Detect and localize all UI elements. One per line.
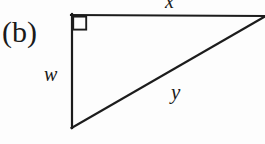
side-label-x: x bbox=[165, 0, 174, 11]
panel-label: (b) bbox=[2, 17, 37, 47]
triangle-side-top-leg bbox=[71, 15, 264, 16]
side-label-y: y bbox=[171, 82, 180, 103]
triangle-diagram bbox=[0, 0, 265, 144]
right-angle-square-icon bbox=[73, 17, 86, 30]
figure-panel-b: (b) x w y bbox=[0, 0, 265, 144]
side-label-w: w bbox=[44, 64, 57, 84]
triangle-side-hypotenuse bbox=[72, 17, 265, 128]
